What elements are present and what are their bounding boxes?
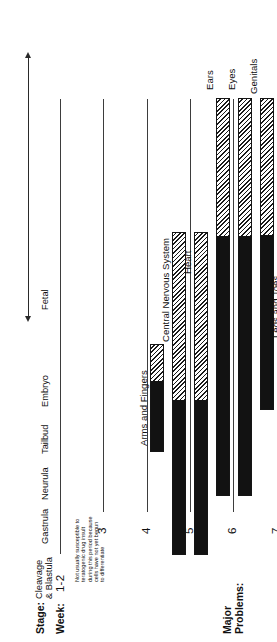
stage-label-cleavage-blastula: Cleavage& Blastula [34,557,54,599]
week-label-1-2: 1-2 [54,575,66,592]
gridline-week-6 [233,99,234,512]
bar-heart [194,232,208,555]
stage-label-tailbud: Tailbud [40,425,50,454]
major-problems-header: MajorProblems: [222,583,246,634]
gridline-week-4 [147,99,148,512]
bar-segment-high [173,400,185,554]
rotated-figure-wrapper: 1-2 3 4 5 6 7 8 9 10-12 13-17 18-20 21-3… [0,0,277,642]
bar-arms-and-fingers [150,344,164,452]
week-label-4: 4 [140,527,152,534]
bar-segment-high [217,236,229,495]
bar-segment-high [151,381,163,451]
bar-segment-low [195,233,207,400]
stage-label-gastrula: Gastrula [40,509,50,544]
gridline-week-1-2 [60,99,61,554]
stage-label-embryo: Embryo [40,375,50,407]
week-label-7: 7 [270,527,277,534]
teratogen-sensitivity-chart: 1-2 3 4 5 6 7 8 9 10-12 13-17 18-20 21-3… [0,0,277,642]
bar-label-heart: Heart [182,251,193,274]
bar-eyes [238,98,252,496]
stage-axis-header: Stage: [34,602,46,634]
bar-label-ears: Ears [204,70,215,90]
bar-segment-high [239,236,251,495]
fetal-period-arrow-line [28,58,29,316]
bar-segment-low [239,99,251,236]
bar-label-eyes: Eyes [226,69,237,90]
bar-segment-high [195,400,207,554]
bar-label-central-nervous-system: Central Nervous System [160,238,171,342]
bar-segment-low [217,99,229,236]
bar-segment-low [261,99,273,235]
bar-ears [216,98,230,496]
bar-genitals [260,98,274,410]
bar-segment-low [151,345,163,381]
fetal-period-arrow-head-left [25,316,31,322]
week-label-6: 6 [226,527,238,534]
gridline-week-5 [190,99,191,512]
bar-central-nervous-system [172,232,186,555]
early-period-note: Not usually susceptible to teratogenic d… [74,516,105,582]
stage-label-fetal: Fetal [40,289,50,310]
bar-label-legs-and-toes: Legs and Toes [270,276,277,338]
bar-label-genitals: Genitals [248,59,259,94]
bar-label-arms-and-fingers: Arms and Fingers [138,370,149,446]
week-axis-header: Week: [54,603,66,634]
stage-label-neurula: Neurula [40,467,50,500]
fetal-period-arrow-head-right [25,52,31,58]
gridline-week-3 [103,99,104,512]
